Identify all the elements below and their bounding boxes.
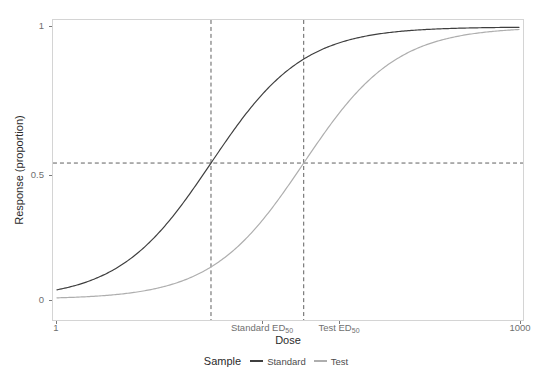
chart-legend: Sample StandardTest [0,355,552,367]
legend-item-label: Test [331,356,348,367]
x-tick-mark [339,321,340,324]
reference-lines [53,20,523,320]
x-tick-label-base: Test ED [318,322,351,333]
series-line-standard [57,27,519,290]
y-tick-label: 1 [0,21,44,31]
legend-item-standard[interactable]: Standard [250,356,306,367]
legend-items: StandardTest [250,356,348,367]
plot-area [53,20,523,320]
x-axis-title: Dose [52,334,524,346]
legend-item-label: Standard [267,356,306,367]
x-tick-mark [520,321,521,324]
legend-key-icon [250,360,263,362]
legend-item-test[interactable]: Test [314,356,348,367]
data-series [57,27,519,298]
x-tick-label-subscript: 50 [285,327,293,334]
legend-key-icon [314,360,327,362]
x-tick-label-subscript: 50 [352,327,360,334]
x-tick-mark [56,321,57,324]
plot-panel [52,19,524,321]
x-tick-label-base: Standard ED [231,322,285,333]
y-tick-label: 0 [0,295,44,305]
dose-response-chart: Response (proportion) 00.51 1Standard ED… [0,0,552,382]
legend-title: Sample [204,355,241,367]
x-tick-mark [262,321,263,324]
y-tick-label: 0.5 [0,170,44,180]
